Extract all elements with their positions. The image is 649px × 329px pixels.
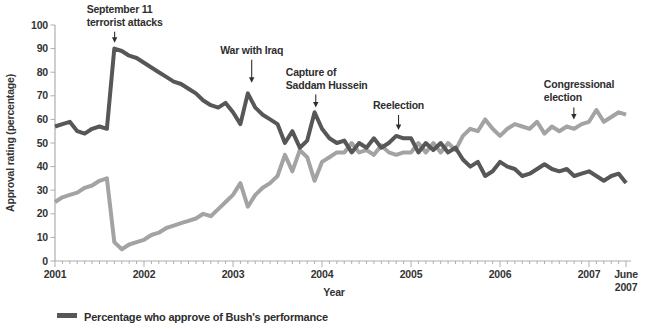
x-end-label: June xyxy=(614,268,638,280)
disapprove-line xyxy=(55,110,626,249)
annotation-arrow-head xyxy=(313,102,318,108)
annotation-arrow-head xyxy=(571,114,576,120)
annotation-label: election xyxy=(544,91,582,103)
annotations: September 11terrorist attacksWar with Ir… xyxy=(87,3,615,130)
annotation-reelection: Reelection xyxy=(373,99,424,130)
annotation-arrow-head xyxy=(112,37,117,43)
annotation-label: terrorist attacks xyxy=(87,16,163,28)
x-tick-label: 2002 xyxy=(133,268,156,280)
approval-chart-figure: 0102030405060708090100200120022003200420… xyxy=(0,0,649,329)
y-tick-label: 30 xyxy=(37,184,49,196)
annotation-arrow-head xyxy=(249,77,254,83)
annotation-arrow-head xyxy=(396,125,401,131)
annotation-label: Saddam Hussein xyxy=(286,79,368,91)
annotation-label: Reelection xyxy=(373,99,424,111)
y-tick-label: 100 xyxy=(31,19,48,31)
x-tick-label: 2005 xyxy=(400,268,423,280)
y-tick-label: 20 xyxy=(37,207,49,219)
x-tick-label: 2003 xyxy=(222,268,245,280)
x-tick-label: 2004 xyxy=(311,268,334,280)
annotation-september-11: September 11terrorist attacks xyxy=(87,3,163,43)
approve-line xyxy=(55,49,626,184)
y-tick-label: 40 xyxy=(37,160,49,172)
y-tick-label: 70 xyxy=(37,89,49,101)
legend-label-approve: Percentage who approve of Bush's perform… xyxy=(84,311,328,323)
annotation-label: September 11 xyxy=(87,3,153,15)
chart-canvas: 0102030405060708090100200120022003200420… xyxy=(0,0,649,329)
x-tick-label: 2001 xyxy=(44,268,67,280)
y-axis-title: Approval rating (percentage) xyxy=(4,74,16,212)
y-tick-label: 10 xyxy=(37,231,49,243)
x-tick-label: 2007 xyxy=(578,268,601,280)
annotation-label: Congressional xyxy=(544,78,615,90)
x-axis-title: Year xyxy=(323,286,345,298)
y-tick-label: 90 xyxy=(37,42,49,54)
x-tick-label: 2006 xyxy=(489,268,512,280)
y-tick-label: 50 xyxy=(37,137,49,149)
y-tick-label: 0 xyxy=(42,255,48,267)
legend-swatch-approve xyxy=(57,313,77,318)
y-tick-label: 60 xyxy=(37,113,49,125)
annotation-congressional: Congressionalelection xyxy=(544,78,615,119)
annotation-label: Capture of xyxy=(286,66,337,78)
annotation-war-with-iraq: War with Iraq xyxy=(220,44,283,83)
annotation-capture-of: Capture ofSaddam Hussein xyxy=(286,66,368,108)
y-tick-label: 80 xyxy=(37,66,49,78)
annotation-label: War with Iraq xyxy=(220,44,283,56)
x-end-label: 2007 xyxy=(615,281,638,293)
